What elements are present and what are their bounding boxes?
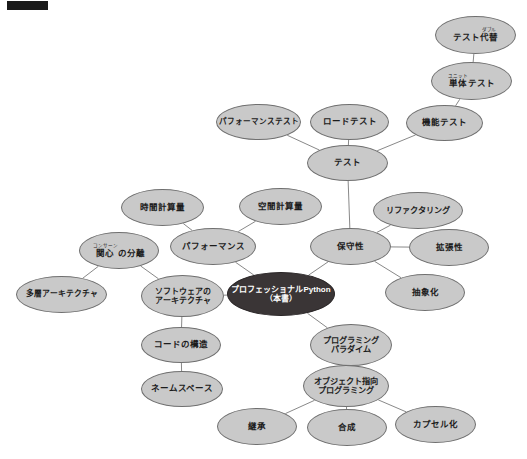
node-programming-paradigm[interactable]: プログラミングパラダイム [310,324,392,366]
node-label-suffix: テスト [468,79,495,88]
node-test-double[interactable]: テストダブル代替 [435,16,516,54]
node-label: 拡張性 [436,243,463,253]
node-code-structure[interactable]: コードの構造 [141,327,221,363]
node-composition[interactable]: 合成 [307,409,387,446]
node-namespace[interactable]: ネームスペース [141,371,223,407]
node-load-test[interactable]: ロードテスト [310,104,389,140]
node-refactoring[interactable]: リファクタリング [373,192,463,229]
node-label: 抽象化 [412,288,439,298]
node-layered-architecture[interactable]: 多層アーキテクチャ [16,276,107,313]
node-label-line2: プログラミング [318,386,374,395]
node-label: コードの構造 [154,340,208,350]
ruby-base: 単体 [449,79,467,88]
ruby-base: 代替 [480,33,498,42]
node-label-line1: プログラミング [323,336,379,345]
node-software-architecture[interactable]: ソフトウェアのアーキテクチャ [141,275,224,317]
node-encapsulation[interactable]: カプセル化 [395,406,476,443]
node-label: ネームスペース [151,384,213,394]
node-label-line1: オブジェクト指向 [314,377,378,386]
node-label: 機能テスト [422,118,467,128]
node-performance-test[interactable]: パフォーマンステスト [216,104,301,140]
node-label: 空間計算量 [258,202,303,212]
node-root[interactable]: プロフェッショナルPython（本書） [227,272,335,316]
ruby-base: 関心 [96,249,114,258]
node-label: ロードテスト [323,117,377,127]
node-extensibility[interactable]: 拡張性 [409,229,489,266]
node-performance[interactable]: パフォーマンス [170,228,256,265]
node-label: 多層アーキテクチャ [26,290,98,299]
node-label: パフォーマンス [182,242,245,252]
ruby-annotation: コンサーン関心 [93,244,118,258]
node-label: リファクタリング [386,206,450,215]
node-layer: テストダブル代替ユニット単体テスト機能テストロードテストパフォーマンステストテス… [0,0,527,459]
node-label: コンサーン関心の分離 [93,244,145,258]
node-label-line2: パラダイム [331,345,371,354]
node-abstraction[interactable]: 抽象化 [385,274,465,311]
node-label: 保守性 [337,242,364,252]
ruby-annotation: ユニット単体 [448,74,468,88]
ruby-annotation: ダブル代替 [480,28,498,42]
node-maintainability[interactable]: 保守性 [310,228,391,265]
node-separation-of-concerns[interactable]: コンサーン関心の分離 [79,232,159,269]
node-functional-test[interactable]: 機能テスト [406,105,483,141]
node-label-line1: プロフェッショナルPython [231,285,330,294]
node-label: テストダブル代替 [453,28,498,42]
node-label: 継承 [248,422,266,432]
node-oop[interactable]: オブジェクト指向プログラミング [303,365,389,407]
mindmap-canvas: テストダブル代替ユニット単体テスト機能テストロードテストパフォーマンステストテス… [0,0,527,459]
node-label-line1: ソフトウェアの [155,287,211,296]
node-time-complexity[interactable]: 時間計算量 [121,189,204,226]
node-inheritance[interactable]: 継承 [217,408,297,445]
node-label: カプセル化 [413,420,458,430]
node-unit-test[interactable]: ユニット単体テスト [431,62,512,100]
node-label: パフォーマンステスト [219,118,299,127]
node-test[interactable]: テスト [307,145,388,181]
node-label-line2: アーキテクチャ [155,296,211,305]
node-label: テスト [334,158,361,168]
node-label-prefix: テスト [453,33,480,42]
node-label-line2: （本書） [265,294,297,303]
node-label: 合成 [338,423,356,433]
node-label: ユニット単体テスト [448,74,495,88]
node-label-suffix: の分離 [118,249,145,258]
node-space-complexity[interactable]: 空間計算量 [239,188,322,225]
node-label: 時間計算量 [140,203,185,213]
